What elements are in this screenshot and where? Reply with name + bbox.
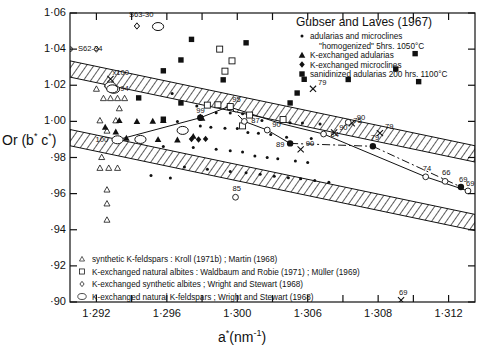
legend-top-entry-sublabel: "homogenized" 5hrs. 1050°C — [319, 42, 424, 51]
legend-top-title: Gubser and Laves (1967) — [296, 15, 432, 29]
hatched-bands — [70, 61, 475, 231]
x-axis-title: a*(nm-1) — [218, 328, 266, 345]
point-label: 87 — [251, 116, 259, 125]
legend-bottom-entry-label: K-exchanged synthetic albites ; Wright a… — [92, 280, 303, 289]
point-label: 75 — [353, 116, 361, 125]
point-label: 69 — [466, 179, 474, 188]
legend-top-entry-label: adularias and microclines — [310, 32, 402, 41]
y-tick-label: ·98 — [22, 151, 66, 163]
point-label: 89 — [276, 140, 284, 149]
x-tick-label: 1·296 — [143, 307, 191, 319]
y-tick-label: 1·02 — [22, 78, 66, 90]
point-label: 100 — [96, 135, 109, 144]
point-label: S62-34 — [78, 44, 103, 53]
point-label: 90 — [306, 139, 314, 148]
legend-top-entry-label: K-exchanged microclines — [310, 61, 401, 70]
legend-bottom-entry-label: synthetic K-feldspars : Kroll (1971b) ; … — [92, 255, 277, 264]
point-label: x100 — [113, 68, 129, 77]
legend-bottom-entry-label: K-exchanged natural K-feldspars ; Wright… — [92, 293, 313, 302]
point-label: 90 — [272, 120, 280, 129]
point-label: 94 — [120, 84, 128, 93]
point-label: 95 — [232, 95, 240, 104]
point-label: 84 — [331, 130, 339, 139]
point-label: 99 — [196, 106, 204, 115]
point-label: 66 — [442, 168, 450, 177]
x-tick-label: 1·306 — [284, 307, 332, 319]
y-tick-label: ·94 — [22, 223, 66, 235]
y-axis-title: Or (b* c*) — [2, 131, 56, 148]
y-tick-label: ·96 — [22, 187, 66, 199]
x-tick-label: 1·300 — [213, 307, 261, 319]
x-tick-label: 1·292 — [72, 307, 120, 319]
point-label: 79 — [318, 78, 326, 87]
point-label: 69 — [399, 288, 407, 297]
x-tick-label: 1·312 — [425, 307, 473, 319]
y-tick-label: ·90 — [22, 295, 66, 307]
legend-top-entry-label: K-exchanged adularias — [310, 51, 394, 60]
x-tick-label: 1·308 — [354, 307, 402, 319]
y-tick-label: 1·04 — [22, 42, 66, 54]
point-label: 79 — [385, 122, 393, 131]
y-tick-label: 1·06 — [22, 6, 66, 18]
point-label: 79 — [371, 133, 379, 142]
point-label: 74 — [423, 164, 431, 173]
point-label: 90 — [339, 123, 347, 132]
point-label: S63-30 — [129, 10, 154, 19]
legend-top-entry-label: sanidinized adularias 200 hrs. 1100°C — [310, 70, 447, 79]
legend-bottom-entry-label: K-exchanged natural albites : Waldbaum a… — [92, 268, 360, 277]
y-tick-label: ·92 — [22, 259, 66, 271]
point-label: 85 — [233, 184, 241, 193]
figure-root: 1·061·041·021·00·98·96·94·92·90 1·2921·2… — [0, 0, 489, 352]
y-tick-label: 1·00 — [22, 114, 66, 126]
